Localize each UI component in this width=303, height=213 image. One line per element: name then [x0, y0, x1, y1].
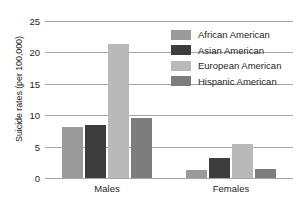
legend-item-african-american[interactable]: African American — [171, 27, 303, 43]
suicide-rates-bar-chart: Suicide rates (per 100,000) 0510152025 M… — [0, 0, 303, 213]
legend-item-european-american[interactable]: European American — [171, 58, 303, 74]
bar-males-asian-american — [85, 125, 106, 178]
legend-label: European American — [198, 61, 281, 71]
gridline-0 — [45, 178, 293, 179]
legend-swatch-icon — [171, 45, 191, 55]
bar-females-hispanic-american — [255, 169, 276, 178]
y-tick-label-15: 15 — [18, 78, 40, 89]
legend-item-asian-american[interactable]: Asian American — [171, 43, 303, 59]
bar-males-hispanic-american — [131, 118, 152, 178]
legend-swatch-icon — [171, 61, 191, 71]
bar-females-african-american — [186, 170, 207, 178]
legend-item-hispanic-american[interactable]: Hispanic American — [171, 74, 303, 90]
y-tick-label-25: 25 — [18, 16, 40, 27]
y-tick-label-0: 0 — [18, 173, 40, 184]
legend-swatch-icon — [171, 30, 191, 40]
y-tick-label-20: 20 — [18, 47, 40, 58]
legend-label: African American — [198, 30, 270, 40]
legend-label: Hispanic American — [198, 77, 277, 87]
bar-females-asian-american — [209, 158, 230, 178]
legend-label: Asian American — [198, 46, 264, 56]
bar-females-european-american — [232, 144, 253, 178]
x-axis-category-labels: MalesFemales — [45, 183, 293, 199]
x-label-males: Males — [94, 183, 119, 194]
y-tick-label-10: 10 — [18, 110, 40, 121]
legend-swatch-icon — [171, 76, 191, 86]
bar-males-african-american — [62, 127, 83, 178]
legend: African AmericanAsian AmericanEuropean A… — [171, 27, 303, 89]
y-tick-label-5: 5 — [18, 141, 40, 152]
x-label-females: Females — [213, 183, 249, 194]
bar-males-european-american — [108, 44, 129, 178]
y-axis-tick-labels: 0510152025 — [14, 21, 40, 178]
